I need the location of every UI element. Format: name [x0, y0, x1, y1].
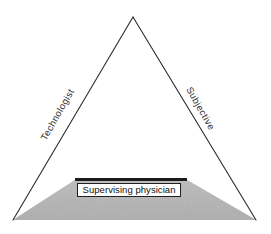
triangle-diagram: Technologist Subjective Supervising phys…	[0, 0, 271, 234]
base-bar	[75, 178, 187, 181]
triangle-graphic	[0, 0, 271, 234]
supervising-physician-label: Supervising physician	[83, 185, 176, 195]
supervising-physician-box: Supervising physician	[77, 183, 181, 197]
